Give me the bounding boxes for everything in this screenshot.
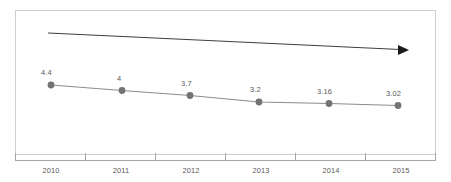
- data-point-marker: [187, 92, 194, 99]
- declining-trend-arrow: [48, 33, 409, 55]
- data-label-2011: 4: [117, 74, 121, 83]
- series-markers: [48, 82, 402, 109]
- data-point-marker: [395, 102, 402, 109]
- data-point-marker: [326, 100, 333, 107]
- x-tick-label-2012: 2012: [170, 166, 212, 175]
- data-label-2010: 4.4: [41, 68, 52, 77]
- data-point-marker: [256, 99, 263, 106]
- x-tick-label-2015: 2015: [380, 166, 422, 175]
- x-tick-label-2010: 2010: [30, 166, 72, 175]
- x-tick-label-2013: 2013: [240, 166, 282, 175]
- series-line: [51, 85, 398, 106]
- data-label-2013: 3.2: [250, 85, 261, 94]
- x-tick-label-2011: 2011: [100, 166, 142, 175]
- data-label-2015: 3.02: [386, 89, 401, 98]
- x-axis-ticks: [16, 153, 436, 161]
- data-label-2012: 3.7: [181, 79, 192, 88]
- data-point-marker: [119, 87, 126, 94]
- x-tick-label-2014: 2014: [310, 166, 352, 175]
- data-point-marker: [48, 82, 55, 89]
- chart-canvas: [0, 0, 451, 182]
- data-label-2014: 3.16: [317, 87, 332, 96]
- chart-screenshot: 4.4 4 3.7 3.2 3.16 3.02 2010 2011 2012 2…: [0, 0, 451, 182]
